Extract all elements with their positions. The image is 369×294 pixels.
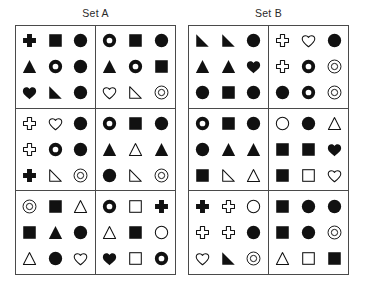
circle-filled-icon	[325, 31, 344, 50]
symbol-cell-a6[interactable]	[96, 191, 176, 274]
square-outline-icon	[126, 249, 145, 268]
heart-filled-icon	[20, 83, 39, 102]
square-filled-icon	[193, 166, 212, 185]
square-filled-icon	[126, 31, 145, 50]
square-filled-icon	[299, 140, 318, 159]
square-filled-icon	[273, 140, 292, 159]
symbol-cell-b6[interactable]	[269, 191, 349, 274]
heart-filled-icon	[100, 249, 119, 268]
triangle-outline-icon	[100, 223, 119, 242]
double-circle-outline-icon	[152, 83, 171, 102]
corner-triangle-filled-icon	[219, 31, 238, 50]
symbol-cell-a1[interactable]	[16, 26, 96, 109]
circle-outline-icon	[273, 114, 292, 133]
symbol-cell-b2[interactable]	[269, 26, 349, 109]
set-block-set-b: Set B	[188, 6, 349, 275]
set-block-set-a: Set A	[15, 6, 176, 275]
triangle-filled-icon	[100, 57, 119, 76]
corner-triangle-outline-icon	[219, 166, 238, 185]
donut-filled-icon	[193, 114, 212, 133]
cross-outline-icon	[219, 197, 238, 216]
donut-filled-icon	[100, 197, 119, 216]
symbol-cell-a4[interactable]	[96, 109, 176, 192]
cross-filled-icon	[152, 197, 171, 216]
circle-filled-icon	[244, 31, 263, 50]
donut-filled-icon	[100, 114, 119, 133]
triangle-outline-icon	[325, 114, 344, 133]
heart-outline-icon	[71, 249, 90, 268]
square-filled-icon	[273, 166, 292, 185]
circle-filled-icon	[193, 83, 212, 102]
triangle-filled-icon	[20, 57, 39, 76]
circle-filled-icon	[71, 31, 90, 50]
triangle-outline-icon	[273, 249, 292, 268]
cross-outline-icon	[20, 140, 39, 159]
page-root: Set ASet B	[0, 0, 369, 294]
donut-filled-icon	[126, 57, 145, 76]
double-circle-outline-icon	[325, 223, 344, 242]
triangle-filled-icon	[100, 140, 119, 159]
square-filled-icon	[273, 223, 292, 242]
donut-filled-icon	[299, 57, 318, 76]
square-filled-icon	[126, 223, 145, 242]
circle-filled-icon	[273, 83, 292, 102]
circle-outline-icon	[152, 223, 171, 242]
symbol-cell-a3[interactable]	[16, 109, 96, 192]
circle-filled-icon	[71, 114, 90, 133]
heart-outline-icon	[325, 166, 344, 185]
square-filled-icon	[20, 223, 39, 242]
cross-filled-icon	[20, 166, 39, 185]
circle-filled-icon	[244, 223, 263, 242]
heart-filled-icon	[244, 57, 263, 76]
cross-filled-icon	[193, 197, 212, 216]
triangle-outline-icon	[20, 249, 39, 268]
circle-filled-icon	[100, 166, 119, 185]
donut-filled-icon	[46, 57, 65, 76]
cross-filled-icon	[20, 31, 39, 50]
circle-filled-icon	[152, 31, 171, 50]
symbol-grid-set-b	[188, 25, 349, 275]
corner-triangle-filled-icon	[219, 249, 238, 268]
circle-filled-icon	[325, 197, 344, 216]
heart-outline-icon	[299, 31, 318, 50]
symbol-cell-b1[interactable]	[189, 26, 269, 109]
donut-filled-icon	[100, 31, 119, 50]
circle-filled-icon	[71, 57, 90, 76]
circle-filled-icon	[244, 114, 263, 133]
symbol-cell-a5[interactable]	[16, 191, 96, 274]
triangle-filled-icon	[193, 57, 212, 76]
cross-outline-icon	[219, 223, 238, 242]
circle-filled-icon	[71, 223, 90, 242]
donut-filled-icon	[152, 249, 171, 268]
triangle-outline-icon	[126, 140, 145, 159]
symbol-cell-b3[interactable]	[189, 109, 269, 192]
heart-outline-icon	[100, 83, 119, 102]
triangle-filled-icon	[244, 140, 263, 159]
square-filled-icon	[219, 83, 238, 102]
set-title-set-a: Set A	[15, 6, 176, 20]
symbol-cell-a2[interactable]	[96, 26, 176, 109]
square-outline-icon	[299, 166, 318, 185]
corner-triangle-outline-icon	[126, 83, 145, 102]
cross-outline-icon	[273, 57, 292, 76]
corner-triangle-outline-icon	[126, 166, 145, 185]
heart-outline-icon	[193, 249, 212, 268]
square-filled-icon	[273, 197, 292, 216]
double-circle-outline-icon	[325, 57, 344, 76]
square-filled-icon	[325, 249, 344, 268]
square-outline-icon	[299, 249, 318, 268]
circle-filled-icon	[299, 223, 318, 242]
square-filled-icon	[46, 197, 65, 216]
donut-filled-icon	[299, 83, 318, 102]
circle-filled-icon	[244, 83, 263, 102]
corner-triangle-filled-icon	[46, 83, 65, 102]
triangle-outline-icon	[244, 166, 263, 185]
square-filled-icon	[152, 57, 171, 76]
symbol-cell-b5[interactable]	[189, 191, 269, 274]
heart-outline-icon	[46, 114, 65, 133]
symbol-cell-b4[interactable]	[269, 109, 349, 192]
heart-filled-icon	[325, 140, 344, 159]
double-circle-outline-icon	[20, 197, 39, 216]
double-circle-outline-icon	[152, 166, 171, 185]
double-circle-outline-icon	[71, 166, 90, 185]
